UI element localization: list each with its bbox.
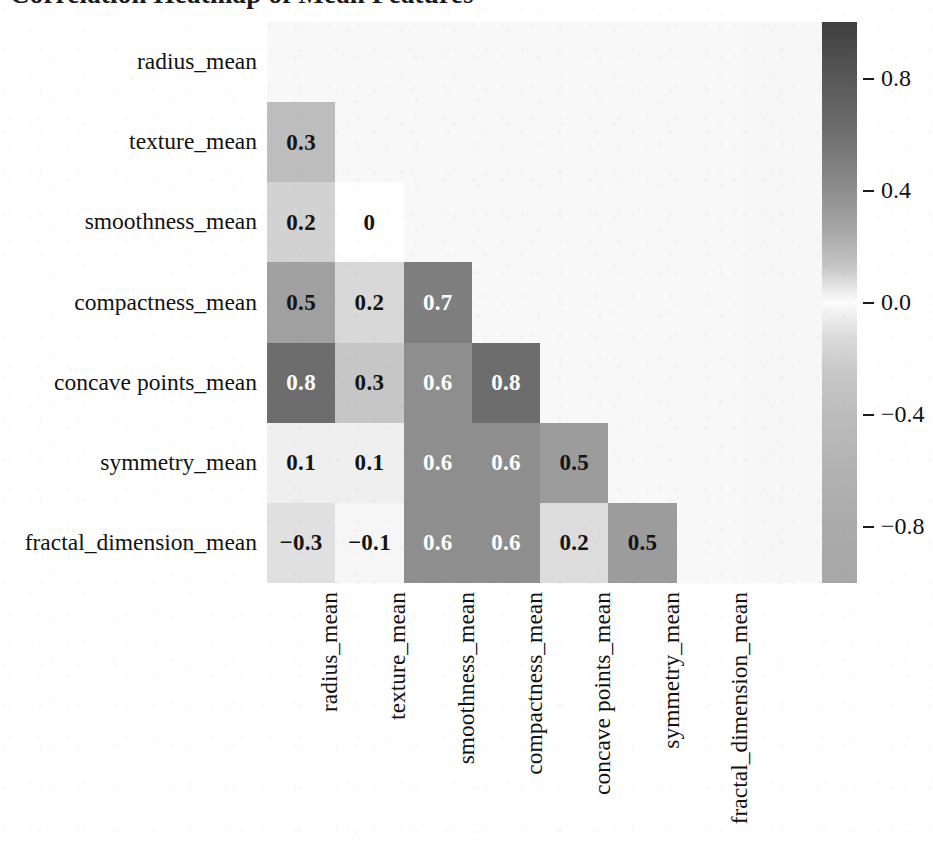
heatmap-cell: 0.5: [540, 423, 608, 503]
colorbar-tick: 0.4: [857, 190, 933, 191]
colorbar-tick-mark: [863, 78, 874, 80]
x-axis-tick-label: radius_mean: [310, 592, 334, 712]
heatmap-cell: 0.6: [404, 503, 472, 583]
colorbar-tick-label: −0.8: [881, 514, 925, 538]
heatmap-cell: 0.1: [335, 423, 403, 503]
y-axis-tick-label: symmetry_mean: [2, 451, 257, 475]
x-axis-tick-label: concave points_mean: [583, 592, 607, 795]
colorbar-tick-mark: [863, 526, 874, 528]
heatmap-cell: 0.6: [472, 423, 540, 503]
x-axis-tick-label-text: radius_mean: [318, 592, 342, 712]
chart-title-clipped: Correlation Heatmap of Mean Features: [0, 0, 933, 9]
colorbar-tick-label: 0.8: [881, 66, 911, 90]
heatmap-cell: 0.5: [267, 262, 335, 342]
x-axis-tick-label: fractal_dimension_mean: [720, 592, 744, 824]
colorbar-tick: −0.8: [857, 527, 933, 528]
y-axis-tick-label: smoothness_mean: [2, 210, 257, 234]
heatmap-cell: 0.3: [267, 102, 335, 182]
x-axis-tick-label-text: compactness_mean: [523, 592, 547, 775]
colorbar-tick: 0.0: [857, 303, 933, 304]
heatmap-cell: −0.1: [335, 503, 403, 583]
heatmap-cell: 0.7: [404, 262, 472, 342]
colorbar-tick-label: 0.4: [881, 178, 911, 202]
correlation-heatmap-figure: Correlation Heatmap of Mean Features 0.3…: [0, 0, 933, 855]
y-axis-tick-label: fractal_dimension_mean: [2, 531, 257, 555]
y-axis-tick-label: texture_mean: [2, 130, 257, 154]
colorbar-tick: −0.4: [857, 415, 933, 416]
x-axis-tick-label: smoothness_mean: [447, 592, 471, 764]
x-axis-tick-label: symmetry_mean: [652, 592, 676, 749]
heatmap-cell: 0.6: [404, 343, 472, 423]
x-axis-labels: radius_meantexture_meansmoothness_meanco…: [267, 592, 825, 855]
heatmap-grid: 0.30.200.50.20.70.80.30.60.80.10.10.60.6…: [267, 22, 745, 583]
colorbar-tick-mark: [863, 302, 874, 304]
y-axis-tick-label: concave points_mean: [2, 371, 257, 395]
colorbar-tick: 0.8: [857, 78, 933, 79]
x-axis-tick-label: texture_mean: [378, 592, 402, 720]
y-axis-labels: radius_meantexture_meansmoothness_meanco…: [0, 22, 257, 583]
colorbar-tick-mark: [863, 190, 874, 192]
x-axis-tick-label-text: texture_mean: [386, 592, 410, 720]
heatmap-cell: 0.1: [267, 423, 335, 503]
colorbar-gradient: [822, 22, 857, 583]
x-axis-tick-label: compactness_mean: [515, 592, 539, 775]
x-axis-tick-label-text: concave points_mean: [591, 592, 615, 795]
heatmap-cell: 0.8: [267, 343, 335, 423]
y-axis-tick-label: compactness_mean: [2, 291, 257, 315]
heatmap-cell: 0.6: [472, 503, 540, 583]
heatmap-cell: 0.8: [472, 343, 540, 423]
heatmap-cell: 0.2: [335, 262, 403, 342]
heatmap-cell: 0.3: [335, 343, 403, 423]
heatmap-cell: 0: [335, 182, 403, 262]
x-axis-tick-label-text: symmetry_mean: [660, 592, 684, 749]
y-axis-tick-label: radius_mean: [2, 50, 257, 74]
heatmap-cell: 0.5: [608, 503, 676, 583]
colorbar-tick-mark: [863, 414, 874, 416]
x-axis-tick-label-text: smoothness_mean: [455, 592, 479, 764]
x-axis-tick-label-text: fractal_dimension_mean: [728, 592, 752, 824]
colorbar: 0.80.40.0−0.4−0.8: [822, 22, 933, 583]
colorbar-tick-label: −0.4: [881, 402, 925, 426]
page-title: Correlation Heatmap of Mean Features: [10, 0, 474, 9]
colorbar-tick-label: 0.0: [881, 290, 911, 314]
heatmap-cell: −0.3: [267, 503, 335, 583]
heatmap-cell: 0.6: [404, 423, 472, 503]
heatmap-cell: 0.2: [540, 503, 608, 583]
heatmap-cell: 0.2: [267, 182, 335, 262]
